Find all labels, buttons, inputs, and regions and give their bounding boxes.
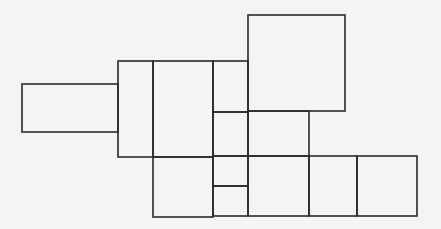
rectangle-group	[22, 15, 417, 217]
rect-connector-block	[118, 61, 153, 157]
rect-center-upper	[153, 61, 213, 157]
rect-center-lower	[153, 157, 213, 217]
rect-mid-block	[248, 111, 309, 156]
rect-bottom-3	[357, 156, 417, 216]
rect-top-square	[248, 15, 345, 111]
rect-bottom-2	[309, 156, 357, 216]
rect-bottom-1	[248, 156, 309, 216]
floor-plan-diagram	[0, 0, 441, 229]
rect-narrow-top	[213, 61, 248, 112]
rect-narrow-mid	[213, 112, 248, 156]
rect-narrow-bottom	[213, 186, 248, 216]
rect-narrow-low	[213, 156, 248, 186]
rect-left-wing	[22, 84, 118, 132]
